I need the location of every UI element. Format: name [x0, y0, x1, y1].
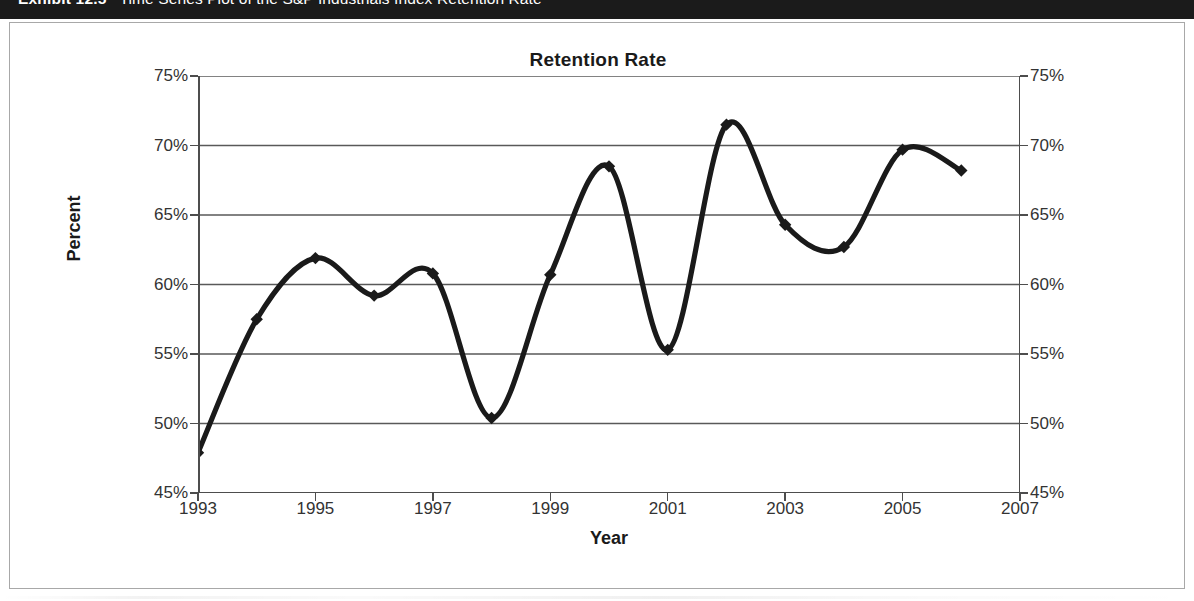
data-point-marker: [309, 252, 321, 264]
y-axis-right-tick-label: 60%: [1030, 276, 1064, 293]
y-axis-right-tick-mark: [1020, 353, 1028, 355]
x-axis-tick-label: 1995: [297, 499, 335, 519]
y-axis-right-tick-label: 50%: [1030, 415, 1064, 432]
y-axis-right-tick-mark: [1020, 492, 1028, 494]
y-axis-left-tick-label: 50%: [154, 415, 188, 432]
y-axis-left-tick-mark: [190, 423, 198, 425]
exhibit-page: Exhibit 12.5Time Series Plot of the S&P …: [0, 0, 1194, 601]
y-axis-left-tick-mark: [190, 353, 198, 355]
chart-canvas: [198, 76, 1020, 493]
plot-area: [198, 76, 1020, 493]
y-axis-right-tick-mark: [1020, 284, 1028, 286]
data-line: [198, 122, 961, 453]
y-axis-left-ticks: 45%50%55%60%65%70%75%: [128, 76, 188, 493]
figure-frame: Retention Rate Percent 45%50%55%60%65%70…: [9, 22, 1185, 589]
exhibit-caption: Time Series Plot of the S&P Industrials …: [120, 0, 542, 7]
y-axis-left-tick-label: 60%: [154, 276, 188, 293]
x-axis-tick-label: 2005: [884, 499, 922, 519]
y-axis-right-tick-label: 75%: [1030, 67, 1064, 84]
y-axis-right-tick-mark: [1020, 145, 1028, 147]
y-axis-right-tick-label: 65%: [1030, 206, 1064, 223]
x-axis-tick-labels: 19931995199719992001200320052007: [198, 499, 1020, 525]
y-axis-right-tick-mark: [1020, 75, 1028, 77]
y-axis-right-tick-label: 55%: [1030, 345, 1064, 362]
y-axis-left-tick-label: 75%: [154, 67, 188, 84]
y-axis-right-tick-mark: [1020, 423, 1028, 425]
y-axis-left-tick-mark: [190, 214, 198, 216]
x-axis-tick-label: 2001: [649, 499, 687, 519]
data-markers: [198, 118, 967, 458]
x-axis-spine: [198, 492, 1020, 494]
y-axis-left-tick-label: 65%: [154, 206, 188, 223]
x-axis-tick-label: 2007: [1001, 499, 1039, 519]
y-axis-left-tick-mark: [190, 75, 198, 77]
y-axis-title: Percent: [64, 149, 85, 309]
exhibit-number: Exhibit 12.5: [18, 0, 107, 7]
scan-artifact: [0, 596, 1194, 599]
y-axis-right-tick-label: 70%: [1030, 137, 1064, 154]
y-axis-left-tick-mark: [190, 145, 198, 147]
x-axis-tick-label: 1993: [179, 499, 217, 519]
exhibit-header-text: Exhibit 12.5Time Series Plot of the S&P …: [18, 0, 542, 8]
y-axis-left-tick-label: 55%: [154, 345, 188, 362]
gridlines: [198, 76, 1020, 424]
y-axis-left-tick-mark: [190, 284, 198, 286]
data-point-marker: [368, 289, 380, 301]
y-axis-left-spine: [198, 76, 200, 493]
x-axis-tick-label: 2003: [766, 499, 804, 519]
x-axis-tick-label: 1997: [414, 499, 452, 519]
y-axis-left-tick-label: 70%: [154, 137, 188, 154]
y-axis-right-ticks: 45%50%55%60%65%70%75%: [1030, 76, 1100, 493]
x-axis-tick-label: 1999: [531, 499, 569, 519]
y-axis-right-tick-mark: [1020, 214, 1028, 216]
series-line-retention-rate: [198, 122, 961, 453]
x-axis-title: Year: [198, 528, 1020, 549]
exhibit-header-band: Exhibit 12.5Time Series Plot of the S&P …: [0, 0, 1194, 19]
